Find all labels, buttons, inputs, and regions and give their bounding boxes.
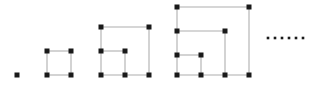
graph-vertex-fig3-2 bbox=[99, 49, 104, 54]
graph-vertex-fig4-6 bbox=[175, 73, 180, 78]
graph-vertex-fig3-1 bbox=[147, 25, 152, 30]
graph-vertex-fig1-0 bbox=[15, 73, 20, 78]
graph-vertex-fig4-0 bbox=[175, 5, 180, 10]
graph-vertex-fig4-2 bbox=[175, 29, 180, 34]
graph-vertex-fig3-0 bbox=[99, 25, 104, 30]
graph-vertex-fig2-3 bbox=[69, 73, 74, 78]
graph-vertex-fig4-3 bbox=[223, 29, 228, 34]
graph-vertex-fig4-9 bbox=[247, 73, 252, 78]
graph-vertex-fig4-7 bbox=[199, 73, 204, 78]
nested-squares-diagram bbox=[0, 0, 313, 88]
vertex-layer bbox=[15, 5, 252, 78]
graph-vertex-fig3-5 bbox=[123, 73, 128, 78]
graph-vertex-fig4-8 bbox=[223, 73, 228, 78]
edge-layer bbox=[47, 7, 249, 75]
ellipsis-dot-3 bbox=[288, 37, 291, 40]
ellipsis-layer bbox=[267, 37, 305, 40]
ellipsis-dot-0 bbox=[267, 37, 270, 40]
graph-vertex-fig2-2 bbox=[45, 73, 50, 78]
graph-vertex-fig3-3 bbox=[123, 49, 128, 54]
ellipsis-dot-4 bbox=[295, 37, 298, 40]
ellipsis-dot-1 bbox=[274, 37, 277, 40]
graph-vertex-fig4-4 bbox=[175, 53, 180, 58]
graph-vertex-fig2-0 bbox=[45, 49, 50, 54]
graph-vertex-fig3-6 bbox=[147, 73, 152, 78]
graph-vertex-fig2-1 bbox=[69, 49, 74, 54]
diagram-svg-surface bbox=[0, 0, 313, 88]
graph-vertex-fig3-4 bbox=[99, 73, 104, 78]
ellipsis-dot-2 bbox=[281, 37, 284, 40]
graph-vertex-fig4-5 bbox=[199, 53, 204, 58]
ellipsis-dot-5 bbox=[302, 37, 305, 40]
graph-vertex-fig4-1 bbox=[247, 5, 252, 10]
